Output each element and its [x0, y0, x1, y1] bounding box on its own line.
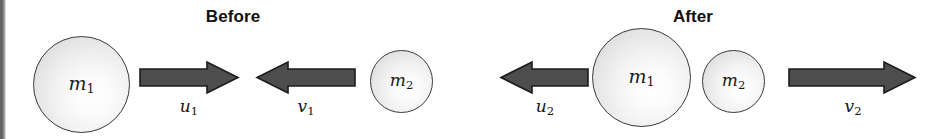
before-velocity-label-v1: v1: [266, 98, 346, 117]
before-velocity-arrow-u1-right-icon: [139, 61, 239, 94]
after-mass-m2: m2: [702, 50, 765, 113]
before-mass-m1-label: m1: [68, 74, 94, 96]
after-velocity-arrow-u2-left-icon: [500, 61, 589, 94]
after-mass-m1-label: m1: [628, 67, 654, 89]
collision-diagram: Before m1 u1 v1 m2 After u2: [0, 0, 942, 139]
after-panel-title: After: [638, 7, 748, 27]
after-velocity-label-v2: v2: [813, 98, 893, 117]
before-velocity-arrow-v1-left-icon: [256, 61, 356, 94]
before-panel-title: Before: [178, 7, 288, 27]
scan-edge-artifact: [0, 0, 6, 139]
after-mass-m2-label: m2: [722, 72, 745, 91]
after-velocity-label-u2: u2: [505, 98, 585, 117]
after-velocity-arrow-v2-right-icon: [788, 61, 916, 94]
before-velocity-label-u1: u1: [149, 98, 229, 117]
after-mass-m1: m1: [592, 28, 691, 127]
before-mass-m2-label: m2: [390, 72, 413, 91]
before-mass-m2: m2: [370, 50, 433, 113]
before-mass-m1: m1: [33, 36, 130, 133]
